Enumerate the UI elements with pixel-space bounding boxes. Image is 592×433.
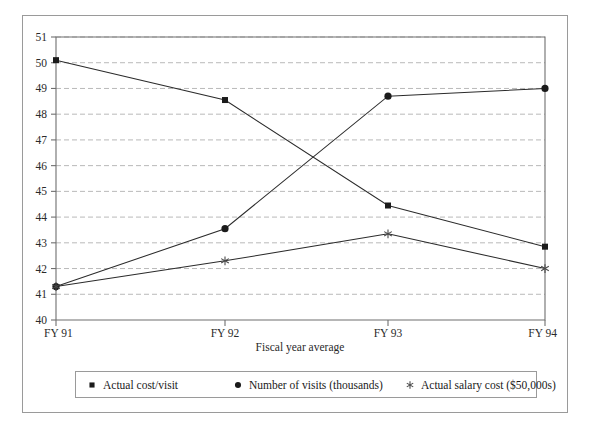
gridlines bbox=[56, 37, 545, 294]
asterisk-marker-icon bbox=[541, 264, 549, 273]
square-marker-icon bbox=[542, 244, 548, 250]
circle-marker-icon bbox=[541, 85, 548, 92]
x-tick-label: FY 91 bbox=[44, 327, 73, 339]
x-axis-title: Fiscal year average bbox=[256, 341, 345, 354]
legend-item-label: Actual salary cost ($50,000s) bbox=[421, 379, 556, 392]
series-1 bbox=[53, 57, 548, 250]
y-tick-labels: 515049484746454443424140 bbox=[36, 31, 48, 326]
x-axis-title-text: Fiscal year average bbox=[256, 341, 345, 354]
x-tick-label: FY 93 bbox=[374, 327, 403, 339]
y-tick-label: 46 bbox=[36, 160, 48, 172]
y-axis bbox=[51, 37, 56, 320]
square-marker-icon bbox=[89, 382, 94, 387]
series-polyline bbox=[56, 88, 545, 286]
y-tick-label: 42 bbox=[36, 263, 48, 275]
y-tick-label: 48 bbox=[36, 108, 48, 120]
legend-item-label: Actual cost/visit bbox=[103, 379, 179, 391]
x-tick-label: FY 92 bbox=[211, 327, 240, 339]
x-tick-label: FY 94 bbox=[528, 327, 557, 339]
circle-marker-icon bbox=[235, 382, 241, 388]
chart-legend: Actual cost/visitNumber of visits (thous… bbox=[76, 372, 556, 398]
series-2 bbox=[52, 85, 548, 290]
series-lines bbox=[52, 57, 549, 291]
circle-marker-icon bbox=[384, 93, 391, 100]
square-marker-icon bbox=[385, 203, 391, 209]
y-tick-label: 47 bbox=[36, 134, 48, 146]
y-tick-label: 41 bbox=[36, 288, 48, 300]
series-3 bbox=[52, 229, 549, 291]
square-marker-icon bbox=[53, 57, 59, 63]
y-tick-label: 45 bbox=[36, 185, 48, 197]
circle-marker-icon bbox=[221, 225, 228, 232]
square-marker-icon bbox=[222, 97, 228, 103]
plot-frame bbox=[56, 37, 545, 320]
x-tick-labels: FY 91FY 92FY 93FY 94 bbox=[44, 327, 557, 339]
y-tick-label: 43 bbox=[36, 237, 48, 249]
legend-item-label: Number of visits (thousands) bbox=[249, 379, 383, 392]
y-tick-label: 44 bbox=[36, 211, 48, 223]
line-chart: 515049484746454443424140 FY 91FY 92FY 93… bbox=[0, 0, 592, 433]
y-tick-label: 49 bbox=[36, 82, 48, 94]
legend-item-2[interactable]: Number of visits (thousands) bbox=[235, 379, 383, 392]
y-tick-label: 51 bbox=[36, 31, 48, 43]
y-tick-label: 50 bbox=[36, 57, 48, 69]
legend-item-3[interactable]: Actual salary cost ($50,000s) bbox=[407, 379, 556, 392]
series-polyline bbox=[56, 234, 545, 287]
x-axis bbox=[56, 320, 545, 326]
y-tick-label: 40 bbox=[36, 314, 48, 326]
legend-item-1[interactable]: Actual cost/visit bbox=[89, 379, 178, 391]
